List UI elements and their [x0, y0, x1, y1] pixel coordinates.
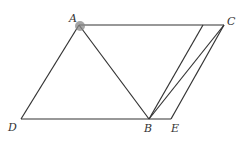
label-A: A: [68, 12, 77, 25]
label-D: D: [7, 121, 17, 134]
label-E: E: [170, 122, 179, 135]
label-C: C: [227, 15, 236, 28]
segment-CE: [171, 25, 224, 119]
segment-BC: [149, 25, 224, 119]
label-B: B: [143, 122, 152, 135]
segment-AD: [21, 25, 79, 119]
geometry-figure: A C D B E: [0, 0, 246, 147]
segment-BF: [149, 25, 203, 119]
segment-AB: [79, 25, 149, 119]
